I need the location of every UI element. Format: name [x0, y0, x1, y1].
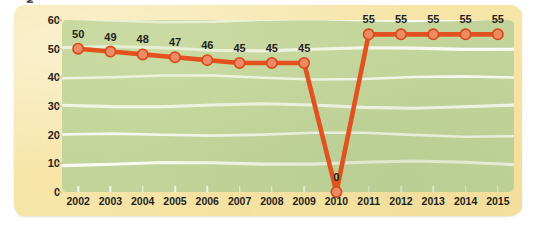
- data-point-label: 45: [298, 42, 310, 54]
- y-axis-tick-label: 30: [40, 100, 60, 112]
- data-point-label: 55: [395, 13, 407, 25]
- x-axis-tick-label: 2007: [228, 195, 251, 207]
- y-axis-tick-label: 40: [40, 71, 60, 83]
- y-axis-tick-label: 20: [40, 129, 60, 141]
- data-point-label: 49: [104, 31, 116, 43]
- y-axis-tick-label: 60: [40, 14, 60, 26]
- x-axis-tick-label: 2010: [325, 195, 348, 207]
- x-axis-tick-label: 2012: [389, 195, 412, 207]
- data-point-label: 55: [459, 13, 471, 25]
- x-axis-tick-labels: 2002200320042005200620072008200920102011…: [62, 195, 514, 211]
- data-point-label: 55: [492, 13, 504, 25]
- data-point-labels: 504948474645454505555555555: [62, 20, 514, 192]
- data-point-label: 45: [233, 42, 245, 54]
- x-axis-tick-label: 2004: [131, 195, 154, 207]
- x-axis-tick-label: 2013: [422, 195, 445, 207]
- x-axis-tick-label: 2014: [454, 195, 477, 207]
- x-axis-tick-label: 2003: [99, 195, 122, 207]
- y-axis-tick-label: 0: [40, 186, 60, 198]
- x-axis-tick-label: 2008: [260, 195, 283, 207]
- data-point-label: 55: [427, 13, 439, 25]
- data-point-label: 50: [72, 28, 84, 40]
- x-axis-tick-label: 2009: [292, 195, 315, 207]
- data-point-label: 47: [169, 36, 181, 48]
- x-axis-tick-label: 2002: [66, 195, 89, 207]
- data-point-label: 48: [137, 33, 149, 45]
- x-axis-tick-label: 2006: [196, 195, 219, 207]
- x-axis-tick-label: 2015: [486, 195, 509, 207]
- data-point-label: 46: [201, 39, 213, 51]
- chart-figure: Maximum Estate Tax Rates (%) 01020304050…: [0, 0, 536, 225]
- data-point-label: 45: [266, 42, 278, 54]
- x-axis-tick-label: 2011: [357, 195, 380, 207]
- y-axis-tick-label: 10: [40, 157, 60, 169]
- y-axis-ticks: 0102030405060: [36, 0, 60, 225]
- x-axis-tick-label: 2005: [163, 195, 186, 207]
- data-point-label: 0: [333, 171, 339, 183]
- data-point-label: 55: [363, 13, 375, 25]
- y-axis-tick-label: 50: [40, 43, 60, 55]
